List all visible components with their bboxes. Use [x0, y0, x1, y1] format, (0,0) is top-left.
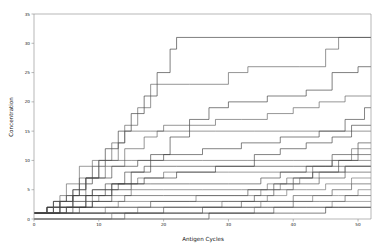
x-tick-label: 40 [291, 222, 297, 227]
series-line [34, 196, 371, 214]
y-tick-label: 35 [25, 12, 31, 17]
y-tick-label: 5 [27, 187, 30, 192]
tick-marks [32, 14, 359, 222]
x-tick-labels: 01020304050 [33, 222, 361, 227]
y-tick-label: 20 [25, 99, 31, 104]
y-tick-label: 0 [27, 217, 30, 222]
series-line [34, 149, 371, 213]
x-tick-label: 10 [96, 222, 102, 227]
x-axis-title: Antigen Cycles [182, 236, 224, 243]
chart-canvas: 01020304050 05101520253035 Antigen Cycle… [0, 0, 385, 250]
y-tick-label: 30 [25, 41, 31, 46]
x-tick-label: 20 [161, 222, 167, 227]
x-tick-label: 30 [226, 222, 232, 227]
y-axis-title: Concentration [8, 97, 14, 137]
y-tick-labels: 05101520253035 [25, 12, 31, 222]
y-tick-label: 25 [25, 70, 31, 75]
series-layer [34, 37, 371, 219]
x-tick-label: 0 [33, 222, 36, 227]
y-tick-label: 10 [25, 158, 31, 163]
series-line [34, 125, 371, 213]
series-line [34, 160, 371, 213]
series-line [34, 67, 371, 213]
y-tick-label: 15 [25, 129, 31, 134]
x-tick-label: 50 [355, 222, 361, 227]
chart-figure: 01020304050 05101520253035 Antigen Cycle… [0, 0, 385, 250]
axes-spines [34, 14, 371, 219]
